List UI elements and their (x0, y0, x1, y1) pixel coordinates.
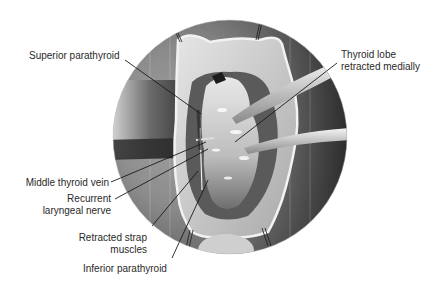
label-thyroid-lobe: Thyroid lobe retracted medially (341, 49, 420, 73)
label-middle-thyroid-vein: Middle thyroid vein (26, 177, 109, 189)
label-recurrent-line2: laryngeal nerve (43, 205, 111, 217)
label-recurrent-line1: Recurrent (43, 193, 111, 205)
label-recurrent-laryngeal-nerve: Recurrent laryngeal nerve (43, 193, 111, 217)
label-superior-parathyroid: Superior parathyroid (29, 50, 120, 62)
label-retracted-strap-muscles: Retracted strap muscles (79, 232, 147, 256)
label-thyroid-lobe-line2: retracted medially (341, 61, 420, 73)
label-thyroid-lobe-line1: Thyroid lobe (341, 49, 420, 61)
operative-field (100, 15, 360, 266)
surgical-illustration (0, 0, 444, 296)
label-inferior-parathyroid: Inferior parathyroid (83, 263, 167, 275)
label-strap-line1: Retracted strap (79, 232, 147, 244)
label-strap-line2: muscles (79, 244, 147, 256)
